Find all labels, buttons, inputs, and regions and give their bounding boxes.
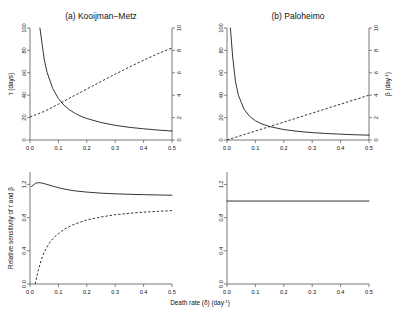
y-tick-label-left: 0.0 xyxy=(21,280,27,288)
y-tick-label-left: 20 xyxy=(218,114,224,120)
y-tick-label-left: 0.0 xyxy=(218,280,224,288)
x-tick-label: 0.2 xyxy=(280,289,288,295)
y-tick-label-right: 8 xyxy=(176,49,182,52)
y-tick-label-left: 20 xyxy=(21,114,27,120)
x-tick-label: 0.3 xyxy=(308,289,316,295)
tau-axis-label: τ (days) xyxy=(7,73,15,95)
x-tick-label: 0.0 xyxy=(223,289,231,295)
y-tick-label-right: 0 xyxy=(373,138,379,141)
panel-a-curve-beta xyxy=(30,48,172,117)
x-tick-label: 0.2 xyxy=(280,145,288,151)
y-tick-label-left: 80 xyxy=(218,47,224,53)
y-tick-label-right: 2 xyxy=(373,116,379,119)
panel-b-curve-tau xyxy=(230,28,369,135)
x-tick-label: 0.4 xyxy=(337,289,345,295)
y-tick-label-left: 0.4 xyxy=(21,247,27,255)
x-tick-label: 0.4 xyxy=(140,145,148,151)
y-tick-label-left: 0 xyxy=(21,138,27,141)
x-tick-label: 0.0 xyxy=(223,145,231,151)
y-tick-label-right: 6 xyxy=(176,71,182,74)
y-tick-label-left: 0.8 xyxy=(21,214,27,222)
x-tick-label: 0.3 xyxy=(111,289,119,295)
y-tick-label-left: 1.2 xyxy=(218,181,224,189)
sensitivity-axis-label: Relative sensitivity of τ and β xyxy=(7,187,15,269)
y-tick-label-left: 60 xyxy=(21,70,27,76)
figure-root: (a) Kooijman−Metz0.00.10.20.30.40.502040… xyxy=(0,0,399,312)
y-tick-label-left: 40 xyxy=(218,92,224,98)
x-tick-label: 0.3 xyxy=(111,145,119,151)
y-tick-label-right: 8 xyxy=(373,49,379,52)
x-tick-label: 0.1 xyxy=(55,145,63,151)
x-tick-label: 0.5 xyxy=(168,145,176,151)
x-tick-label: 0.0 xyxy=(26,289,34,295)
panel-c-curve-beta-sensitivity xyxy=(35,211,172,284)
x-tick-label: 0.4 xyxy=(337,145,345,151)
y-tick-label-left: 60 xyxy=(218,70,224,76)
y-tick-label-left: 0 xyxy=(218,138,224,141)
y-tick-label-right: 4 xyxy=(176,94,182,97)
x-tick-label: 0.0 xyxy=(26,145,34,151)
x-tick-label: 0.5 xyxy=(168,289,176,295)
x-tick-label: 0.1 xyxy=(55,289,63,295)
y-tick-label-left: 80 xyxy=(21,47,27,53)
panel-a-title: (a) Kooijman−Metz xyxy=(65,11,137,21)
y-tick-label-right: 10 xyxy=(176,25,182,31)
panel-b-title: (b) Paloheimo xyxy=(272,11,325,21)
y-tick-label-left: 0.4 xyxy=(218,247,224,255)
x-tick-label: 0.1 xyxy=(252,145,260,151)
y-tick-label-right: 4 xyxy=(373,94,379,97)
x-tick-label: 0.5 xyxy=(365,289,373,295)
panel-b-curve-beta xyxy=(227,95,369,140)
y-tick-label-left: 40 xyxy=(21,92,27,98)
x-tick-label: 0.1 xyxy=(252,289,260,295)
y-tick-label-right: 10 xyxy=(373,25,379,31)
y-tick-label-left: 1.2 xyxy=(21,181,27,189)
x-tick-label: 0.2 xyxy=(83,145,91,151)
y-tick-label-right: 6 xyxy=(373,71,379,74)
panel-c-curve-tau-sensitivity xyxy=(31,183,172,196)
x-tick-label: 0.2 xyxy=(83,289,91,295)
y-tick-label-right: 2 xyxy=(176,116,182,119)
y-tick-label-left: 100 xyxy=(21,23,27,32)
y-tick-label-left: 0.8 xyxy=(218,214,224,222)
x-tick-label: 0.5 xyxy=(365,145,373,151)
y-tick-label-left: 100 xyxy=(218,23,224,32)
panel-a-curve-tau xyxy=(40,28,172,131)
x-tick-label: 0.4 xyxy=(140,289,148,295)
beta-axis-label: β (day-1) xyxy=(384,72,392,96)
y-tick-label-right: 0 xyxy=(176,138,182,141)
x-axis-label: Death rate (δ) (day-1) xyxy=(170,299,230,307)
x-tick-label: 0.3 xyxy=(308,145,316,151)
multi-panel-plot: (a) Kooijman−Metz0.00.10.20.30.40.502040… xyxy=(0,0,399,312)
